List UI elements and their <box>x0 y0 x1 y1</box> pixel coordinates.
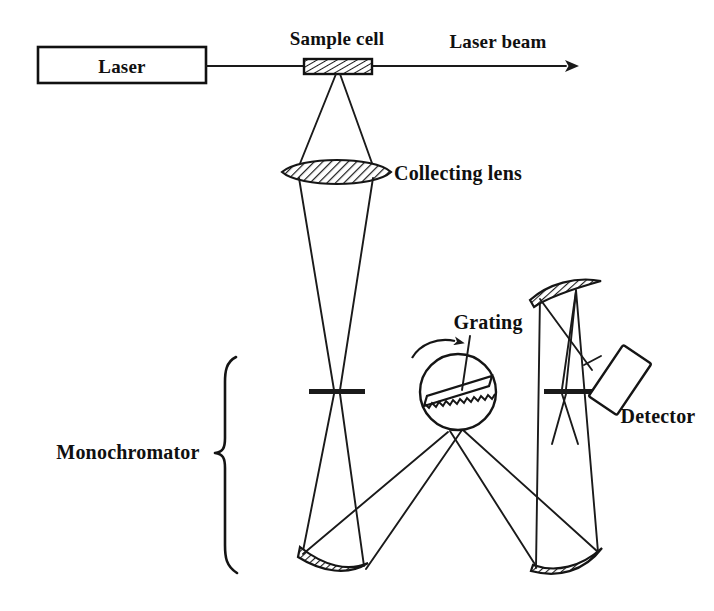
fold-mirror-to-exit-slit <box>540 291 592 389</box>
detector-label: Detector <box>621 405 696 427</box>
left-mirror-to-grating <box>303 430 462 569</box>
focusing-mirror-right <box>531 548 602 574</box>
slit-to-left-mirror <box>303 394 364 566</box>
lens-to-entrance-slit <box>299 178 373 390</box>
laser-label: Laser <box>98 56 146 77</box>
diffraction-grating <box>412 336 496 430</box>
grating-label: Grating <box>453 311 522 334</box>
sample-cell-label: Sample cell <box>290 28 385 49</box>
folding-mirror-upper-right <box>530 280 601 307</box>
raman-spectrometer-diagram: Laser Laser beam Sample cell Collecting … <box>0 0 714 611</box>
grating-to-right-mirror <box>450 430 598 566</box>
collecting-lens-label: Collecting lens <box>394 162 522 185</box>
sample-cell <box>304 59 372 74</box>
right-mirror-to-fold-mirror <box>536 290 598 568</box>
entrance-slit <box>309 389 365 394</box>
laser-beam-label: Laser beam <box>449 31 546 52</box>
collecting-lens <box>282 160 391 184</box>
monochromator-label: Monochromator <box>56 441 199 463</box>
scatter-cone-to-lens <box>299 74 373 166</box>
exit-slit <box>544 389 596 394</box>
schematic-canvas: Laser Laser beam Sample cell Collecting … <box>0 0 714 611</box>
monochromator-brace <box>215 357 237 573</box>
